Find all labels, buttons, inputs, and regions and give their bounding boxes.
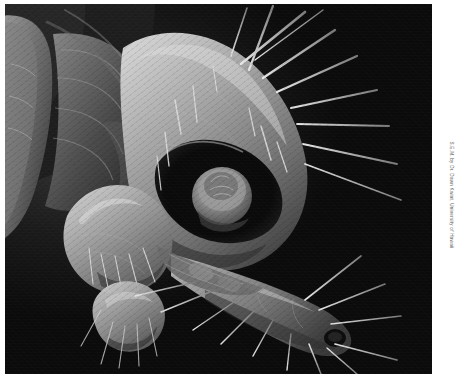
- sem-micrograph: [5, 4, 432, 374]
- photo-plate: S.E.M. by Dr. Dawn Kwiat, University of …: [0, 0, 470, 389]
- photo-credit: S.E.M. by Dr. Dawn Kwiat, University of …: [449, 141, 454, 248]
- sem-scene: [5, 4, 432, 374]
- grain-texture: [5, 4, 432, 374]
- credit-strip: S.E.M. by Dr. Dawn Kwiat, University of …: [432, 0, 470, 389]
